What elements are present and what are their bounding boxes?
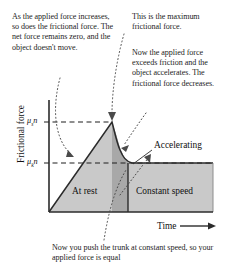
y-axis-label: Frictional force <box>16 91 26 177</box>
normal-force-symbol-kinetic: n <box>34 157 38 166</box>
region-label-at-rest: At rest <box>72 186 97 196</box>
region-label-constant-speed: Constant speed <box>136 186 193 196</box>
leader-arrow-exceeds <box>121 145 129 152</box>
time-arrow-head <box>208 222 216 229</box>
x-axis-label: Time <box>157 221 176 231</box>
area-fill-accelerating <box>112 122 128 212</box>
region-label-accelerating: Accelerating <box>154 140 202 150</box>
area-fill-total <box>49 122 213 212</box>
friction-plot <box>0 0 228 268</box>
figure-canvas: As the applied force increases, so does … <box>0 0 228 268</box>
y-tick-label-mu-kinetic: μkn <box>27 157 38 168</box>
y-tick-label-mu-static: μsn <box>27 116 37 127</box>
leader-line-maximum <box>112 34 124 114</box>
leader-arrow-top-left <box>66 150 74 157</box>
leader-arrow-maximum <box>108 112 116 121</box>
leader-line-exceeds <box>124 113 146 145</box>
normal-force-symbol-static: n <box>33 116 37 125</box>
leader-line-top-left <box>56 78 72 155</box>
